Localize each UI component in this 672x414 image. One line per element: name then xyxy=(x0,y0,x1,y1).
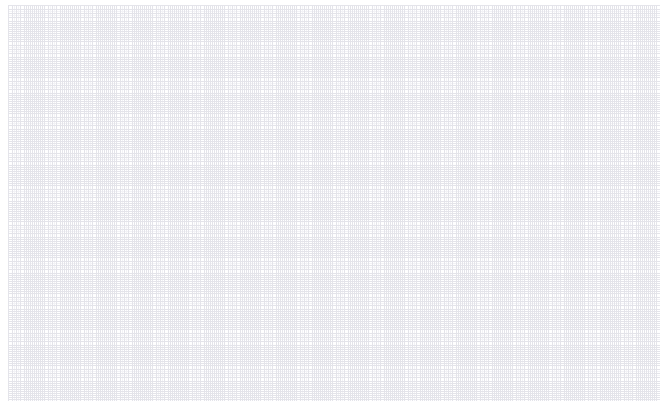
grid-major-lines xyxy=(8,5,660,401)
grid-canvas[interactable] xyxy=(8,5,660,401)
canvas-root xyxy=(0,0,672,414)
